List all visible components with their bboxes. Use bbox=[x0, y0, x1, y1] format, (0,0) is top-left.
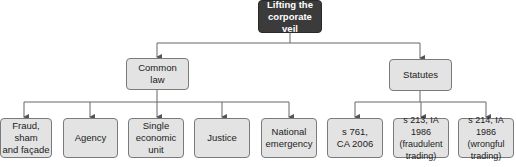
leaf-node-justice: Justice bbox=[194, 118, 250, 158]
branch-node-statutes: Statutes bbox=[389, 59, 452, 91]
leaf-node-national-emergency: National emergency bbox=[261, 118, 317, 158]
root-node: Lifting the corporate veil bbox=[258, 0, 322, 33]
leaf-node-fraud-sham-facade: Fraud, sham and façade bbox=[0, 118, 52, 158]
leaf-node-agency: Agency bbox=[63, 118, 118, 158]
leaf-node-s761-ca2006: s 761, CA 2006 bbox=[327, 118, 383, 158]
leaf-node-single-economic-unit: Single economic unit bbox=[128, 118, 184, 158]
leaf-node-s213-ia1986: s 213, IA 1986 (fraudulent trading) bbox=[393, 118, 449, 158]
branch-node-common-law: Common law bbox=[126, 58, 189, 90]
leaf-node-s214-ia1986: s 214, IA 1986 (wrongful trading) bbox=[458, 118, 514, 158]
